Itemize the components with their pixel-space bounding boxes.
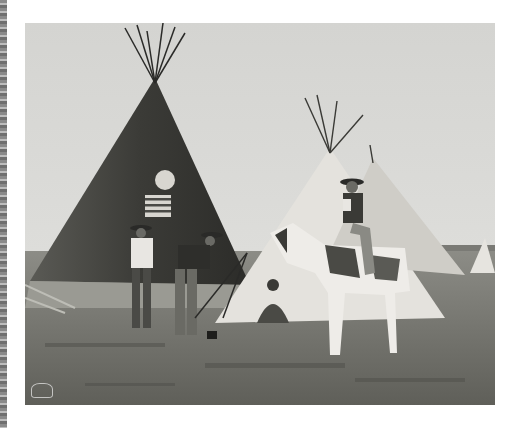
photo-scene [25, 23, 495, 405]
photographer-stamp [31, 383, 53, 398]
pot [207, 331, 217, 339]
film-edge-strip [0, 0, 7, 428]
photograph [25, 23, 495, 405]
